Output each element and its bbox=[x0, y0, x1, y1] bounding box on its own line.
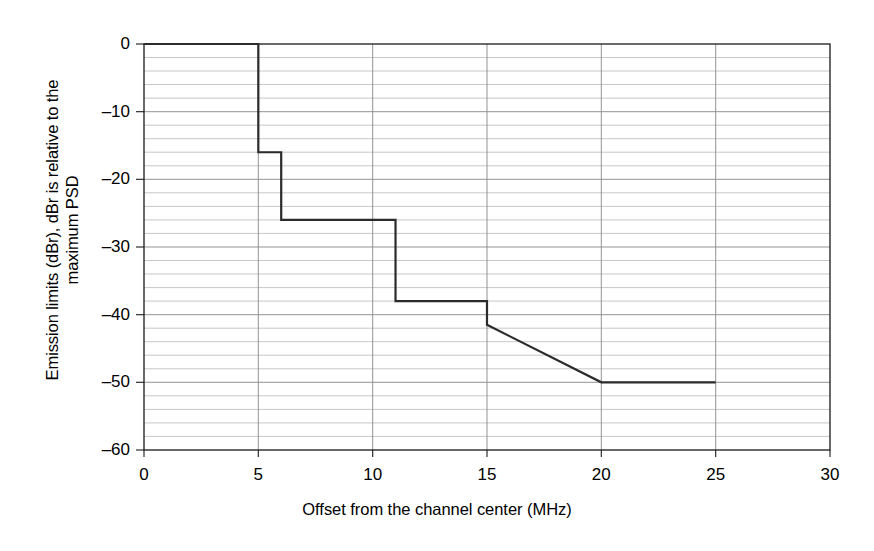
x-axis-tick-labels: 0 5 10 15 20 25 30 bbox=[0, 0, 874, 551]
x-tick-label: 10 bbox=[343, 465, 403, 485]
x-tick-label: 5 bbox=[228, 465, 288, 485]
emission-mask-chart: Emission limits (dBr), dBr is relative t… bbox=[0, 0, 874, 551]
x-axis-label: Offset from the channel center (MHz) bbox=[0, 500, 874, 519]
x-tick-label: 15 bbox=[457, 465, 517, 485]
x-tick-label: 30 bbox=[800, 465, 860, 485]
x-tick-label: 25 bbox=[686, 465, 746, 485]
x-tick-label: 20 bbox=[571, 465, 631, 485]
x-tick-label: 0 bbox=[114, 465, 174, 485]
